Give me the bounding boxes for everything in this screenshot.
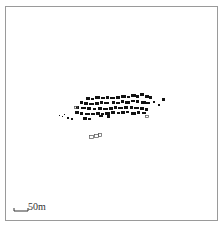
building-footprint <box>80 112 83 115</box>
building-footprint <box>125 101 130 104</box>
building-footprint <box>117 112 120 114</box>
building-footprint <box>162 98 165 101</box>
building-footprint <box>105 112 110 115</box>
building-footprint <box>130 106 133 109</box>
building-footprint <box>59 115 60 116</box>
building-footprint <box>136 95 139 98</box>
building-footprint <box>137 111 140 114</box>
scale-bar-label: 50m <box>28 201 46 212</box>
building-footprint <box>88 118 91 120</box>
building-footprint <box>107 115 110 118</box>
building-footprint <box>101 97 105 99</box>
building-footprint <box>140 107 144 110</box>
building-footprint <box>145 95 149 98</box>
building-footprint <box>64 114 65 115</box>
building-outline <box>146 116 149 118</box>
building-footprint <box>158 104 160 106</box>
building-footprint <box>81 107 86 109</box>
building-footprint <box>134 107 139 109</box>
building-footprint <box>93 108 96 110</box>
building-footprint <box>131 94 136 97</box>
building-footprint <box>112 101 115 104</box>
building-footprint <box>85 113 90 115</box>
building-footprint <box>99 115 103 117</box>
building-footprint <box>110 97 115 99</box>
building-footprint <box>118 107 123 109</box>
building-footprint <box>62 116 63 117</box>
building-footprint <box>95 96 100 99</box>
building-footprint-map <box>0 0 224 226</box>
building-footprint <box>67 117 69 119</box>
building-footprint <box>153 101 155 103</box>
building-footprint <box>149 96 152 99</box>
building-footprint <box>71 118 73 120</box>
building-footprint <box>95 102 99 105</box>
building-footprint <box>140 93 144 96</box>
building-footprint <box>83 117 87 120</box>
building-footprint <box>126 111 129 113</box>
building-footprint <box>103 108 108 110</box>
building-footprint <box>116 102 120 104</box>
building-footprint <box>131 100 135 102</box>
building-footprint <box>127 96 130 98</box>
building-footprint <box>131 112 136 115</box>
building-footprint <box>91 113 95 115</box>
building-footprint <box>80 101 83 104</box>
building-footprint <box>145 108 148 111</box>
building-footprint <box>124 106 128 109</box>
building-footprint <box>109 107 113 110</box>
building-outline <box>90 136 94 139</box>
building-outline <box>99 134 102 137</box>
scale-bar <box>14 208 28 211</box>
building-footprint <box>75 111 79 114</box>
building-footprint <box>106 96 109 99</box>
building-footprint <box>141 101 146 104</box>
building-footprint <box>142 112 146 114</box>
building-footprint <box>89 103 94 105</box>
building-footprint <box>114 106 117 109</box>
building-footprint <box>111 111 115 114</box>
building-footprint <box>98 107 102 110</box>
building-footprint <box>104 102 109 104</box>
building-footprint <box>121 100 124 103</box>
building-footprint <box>84 102 88 105</box>
building-footprint <box>96 112 100 115</box>
building-footprint <box>146 102 150 104</box>
building-outline <box>95 135 99 138</box>
building-footprint <box>101 113 104 115</box>
building-footprint <box>116 96 120 99</box>
building-footprint <box>136 100 139 103</box>
building-footprint <box>121 111 125 114</box>
building-footprint <box>86 97 90 100</box>
building-footprint <box>100 101 103 104</box>
building-footprint <box>87 107 91 110</box>
building-footprint <box>121 95 126 98</box>
building-footprint <box>91 98 94 100</box>
